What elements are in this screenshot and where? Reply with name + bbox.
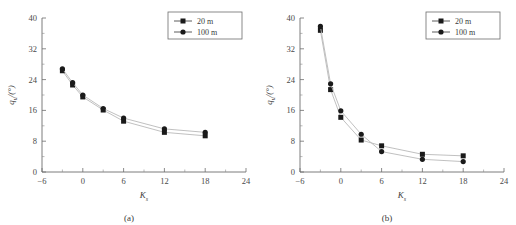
data-point-marker (70, 80, 75, 85)
data-point-marker (121, 116, 126, 121)
y-tick-label: 0 (33, 167, 37, 177)
data-point-marker (379, 143, 384, 148)
y-tick-label: 24 (287, 75, 296, 85)
y-tick-label: 40 (287, 13, 296, 23)
y-axis-title: qu/(°) (6, 85, 18, 105)
series-line (62, 69, 205, 133)
data-point-marker (359, 138, 364, 143)
data-point-marker (60, 66, 65, 71)
panel-b: 0816243240−606121824Ksqu/(°)20 m100 m (b… (258, 0, 516, 225)
x-axis-title: Ks (397, 190, 407, 202)
y-tick-label: 0 (291, 167, 295, 177)
x-tick-label: 6 (379, 176, 383, 186)
x-tick-label: −6 (37, 176, 46, 186)
figure-container: 0816243240−606121824Ksqu/(°)20 m100 m (a… (0, 0, 516, 225)
data-point-marker (101, 106, 106, 111)
panel-b-caption: (b) (258, 213, 516, 223)
x-tick-label: 6 (121, 176, 125, 186)
x-tick-label: 0 (339, 176, 343, 186)
x-tick-label: 18 (201, 176, 210, 186)
data-point-marker (162, 126, 167, 131)
x-tick-label: −6 (295, 176, 304, 186)
data-point-marker (379, 149, 384, 154)
axis-lines (300, 18, 504, 172)
data-point-marker (461, 153, 466, 158)
data-point-marker (338, 115, 343, 120)
x-tick-label: 18 (459, 176, 468, 186)
y-tick-label: 16 (287, 105, 296, 115)
chart-b: 0816243240−606121824Ksqu/(°)20 m100 m (258, 0, 516, 225)
y-tick-label: 32 (29, 44, 38, 54)
panel-a-caption: (a) (0, 213, 258, 223)
series-line (320, 30, 463, 156)
legend-label: 100 m (455, 28, 476, 37)
data-point-marker (338, 108, 343, 113)
y-tick-label: 24 (29, 75, 38, 85)
y-tick-label: 16 (29, 105, 38, 115)
data-point-marker (359, 132, 364, 137)
data-point-marker (420, 152, 425, 157)
chart-a: 0816243240−606121824Ksqu/(°)20 m100 m (0, 0, 258, 225)
legend-label: 20 m (455, 17, 472, 26)
series-line (320, 26, 463, 161)
x-tick-label: 12 (160, 176, 169, 186)
x-tick-label: 24 (500, 176, 509, 186)
x-axis-title: Ks (139, 190, 149, 202)
y-tick-label: 40 (29, 13, 38, 23)
legend-square-marker (181, 19, 186, 24)
data-point-marker (318, 24, 323, 29)
y-axis-title: qu/(°) (264, 85, 276, 105)
data-point-marker (203, 130, 208, 135)
y-tick-label: 8 (33, 136, 37, 146)
series-line (62, 71, 205, 136)
x-tick-label: 24 (242, 176, 251, 186)
x-tick-label: 12 (418, 176, 427, 186)
panel-a: 0816243240−606121824Ksqu/(°)20 m100 m (a… (0, 0, 258, 225)
data-point-marker (420, 157, 425, 162)
data-point-marker (80, 92, 85, 97)
legend-square-marker (439, 19, 444, 24)
legend-circle-marker (180, 29, 185, 34)
y-tick-label: 32 (287, 44, 296, 54)
data-point-marker (328, 81, 333, 86)
legend-label: 20 m (197, 17, 214, 26)
data-point-marker (461, 159, 466, 164)
legend-circle-marker (438, 29, 443, 34)
legend-label: 100 m (197, 28, 218, 37)
y-tick-label: 8 (291, 136, 295, 146)
axis-lines (42, 18, 246, 172)
x-tick-label: 0 (81, 176, 85, 186)
